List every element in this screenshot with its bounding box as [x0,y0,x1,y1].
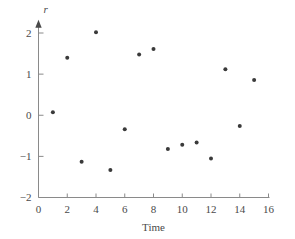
x-tick-label: 14 [234,203,246,215]
y-tick-label: −1 [20,150,32,162]
data-point [51,110,55,114]
data-point [209,156,213,160]
scatter-plot-canvas: 210−1−20246810121416rTime [0,0,295,239]
data-point [152,47,156,51]
data-point [180,143,184,147]
data-point [123,127,127,131]
y-tick-label: 0 [26,109,32,121]
x-tick-label: 4 [93,203,99,215]
data-point [65,56,69,60]
data-point [195,140,199,144]
data-point [238,124,242,128]
x-tick-label: 10 [177,203,189,215]
residual-scatter-plot-figure: 210−1−20246810121416rTime [0,0,295,239]
x-tick-label: 16 [263,203,275,215]
y-axis-title: r [44,3,49,15]
data-point [94,30,98,34]
data-point [252,78,256,82]
x-tick-label: 2 [65,203,71,215]
x-tick-label: 0 [36,203,42,215]
x-tick-label: 12 [206,203,217,215]
x-axis-title: Time [142,221,165,233]
data-point [80,160,84,164]
y-tick-label: 1 [26,68,32,80]
y-tick-label: −2 [20,191,32,203]
y-tick-label: 2 [26,27,32,39]
x-tick-label: 8 [151,203,157,215]
data-point [166,147,170,151]
data-point [137,52,141,56]
x-tick-label: 6 [122,203,128,215]
y-axis-arrow-icon [35,20,41,28]
data-point [223,67,227,71]
data-point [108,168,112,172]
